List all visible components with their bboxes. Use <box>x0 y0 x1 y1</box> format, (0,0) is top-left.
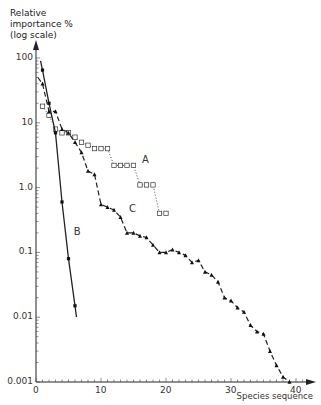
y-tick-label: 0.001 <box>7 376 33 386</box>
series-A-marker <box>118 163 122 167</box>
series-A-marker <box>92 146 96 150</box>
series-A-marker <box>99 146 103 150</box>
series-C-marker <box>281 375 285 379</box>
series-C-marker <box>268 349 272 353</box>
curve-label-B: B <box>74 226 81 237</box>
series-A-marker <box>151 183 155 187</box>
x-tick-label: 0 <box>33 385 39 395</box>
x-axis-title: Species sequence <box>237 391 313 401</box>
y-tick-label: 100 <box>16 52 33 62</box>
series-A-marker <box>86 143 90 147</box>
series-C-marker <box>73 140 77 144</box>
series-A-marker <box>138 183 142 187</box>
series-B-marker <box>41 69 44 72</box>
series-C-marker <box>223 295 227 299</box>
y-tick-label: 1.0 <box>19 182 33 192</box>
series-B-marker <box>73 304 76 307</box>
x-tick-label: 10 <box>95 385 106 395</box>
series-C-marker <box>275 363 279 367</box>
series-C-marker <box>171 248 175 252</box>
series-C-marker <box>41 82 45 86</box>
series-C-marker <box>203 270 207 274</box>
series-B-marker <box>47 102 50 105</box>
series-A-marker <box>47 113 51 117</box>
series-C-marker <box>99 202 103 206</box>
series-A-marker <box>157 211 161 215</box>
x-axis-arrow-icon <box>306 379 316 385</box>
series-A-marker <box>40 104 44 108</box>
series-C-marker <box>216 280 220 284</box>
series-A-marker <box>112 163 116 167</box>
y-tick-label: 0.1 <box>19 246 33 256</box>
series-A-marker <box>79 140 83 144</box>
series-A-marker <box>125 163 129 167</box>
series-C-marker <box>93 172 97 176</box>
series-A-marker <box>144 183 148 187</box>
y-tick-label: 0.01 <box>13 311 33 321</box>
series-C-marker <box>210 273 214 277</box>
series-B-line <box>41 61 77 317</box>
series-A-marker <box>60 131 64 135</box>
series-A-marker <box>164 211 168 215</box>
series-A-marker <box>73 135 77 139</box>
series-B-marker <box>60 200 63 203</box>
series-C-marker <box>60 127 64 131</box>
chart-plot-area <box>0 0 321 405</box>
curve-label-C: C <box>129 203 136 214</box>
y-tick-label: 10 <box>22 117 33 127</box>
series-A-marker <box>131 163 135 167</box>
x-tick-label: 30 <box>225 385 236 395</box>
y-axis-arrow-icon <box>33 40 39 50</box>
series-C-marker <box>249 323 253 327</box>
curve-label-A: A <box>142 154 149 165</box>
x-tick-label: 20 <box>160 385 171 395</box>
series-B-marker <box>54 131 57 134</box>
series-A-marker <box>105 146 109 150</box>
series-C-marker <box>86 169 90 173</box>
series-B-marker <box>67 257 70 260</box>
